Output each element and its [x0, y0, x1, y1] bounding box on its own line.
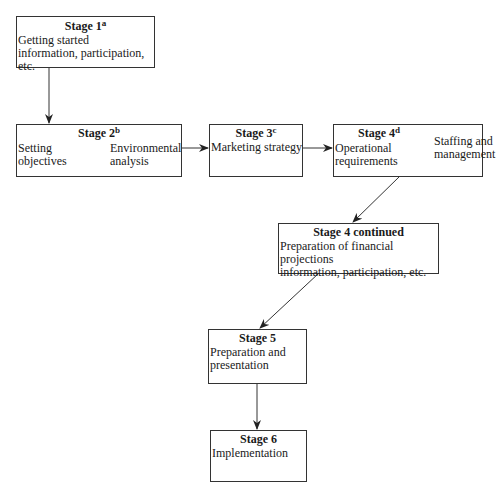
footnote-b: b — [115, 125, 120, 135]
stage-6-line-1: Implementation — [212, 447, 288, 460]
stage-2-title: Stage 2b — [17, 126, 181, 140]
footnote-a: a — [102, 18, 107, 28]
stage-1-line-2: information, participation, etc. — [18, 47, 154, 73]
stage-2-box: Stage 2b Setting objectives Environmenta… — [16, 124, 182, 177]
stage-4-continued-text: Preparation of financial projections inf… — [280, 240, 438, 279]
stage-4-continued-line-2: information, participation, etc. — [280, 266, 438, 279]
stage-4-continued-box: Stage 4 continued Preparation of financi… — [278, 223, 439, 274]
stage-2-right-line-2: analysis — [110, 155, 181, 168]
stage-3-title-text: Stage 3 — [236, 126, 273, 140]
stage-6-box: Stage 6 Implementation — [210, 430, 307, 482]
stage-3-title: Stage 3c — [210, 126, 302, 140]
stage-4-continued-title: Stage 4 continued — [279, 225, 438, 239]
stage-4-right-line-2: management — [434, 148, 495, 161]
stage-1-title-text: Stage 1 — [65, 19, 102, 33]
stage-6-text: Implementation — [212, 447, 288, 460]
stage-5-box: Stage 5 Preparation and presentation — [208, 329, 307, 384]
stage-1-box: Stage 1a Getting started information, pa… — [16, 16, 155, 68]
stage-4-left-line-2: requirements — [335, 155, 398, 168]
stage-2-left-text: Setting objectives — [18, 142, 67, 168]
stage-3-line-1: Marketing strategy — [211, 141, 302, 154]
stage-3-text: Marketing strategy — [211, 141, 302, 154]
stage-5-title-text: Stage 5 — [239, 331, 276, 345]
stage-6-title-text: Stage 6 — [240, 432, 277, 446]
footnote-c: c — [273, 125, 277, 135]
stage-4-continued-title-text: Stage 4 continued — [313, 225, 404, 239]
stage-4-continued-line-1: Preparation of financial projections — [280, 240, 438, 266]
stage-5-text: Preparation and presentation — [210, 346, 286, 372]
stage-4-left-text: Operational requirements — [335, 142, 398, 168]
stage-5-line-2: presentation — [210, 359, 286, 372]
stage-5-title: Stage 5 — [209, 331, 306, 345]
stage-2-right-text: Environmental analysis — [110, 142, 181, 168]
stage-4-box: Stage 4d Operational requirements Staffi… — [333, 124, 483, 177]
stage-2-title-text: Stage 2 — [78, 126, 115, 140]
footnote-d: d — [395, 125, 400, 135]
stage-6-title: Stage 6 — [211, 432, 306, 446]
stage-4-title-text: Stage 4 — [358, 126, 395, 140]
stage-1-title: Stage 1a — [17, 19, 154, 33]
stage-1-text: Getting started information, participati… — [18, 34, 154, 73]
stage-3-box: Stage 3c Marketing strategy — [209, 124, 303, 177]
stage-2-left-line-2: objectives — [18, 155, 67, 168]
stage-4-right-text: Staffing and management — [434, 135, 495, 161]
